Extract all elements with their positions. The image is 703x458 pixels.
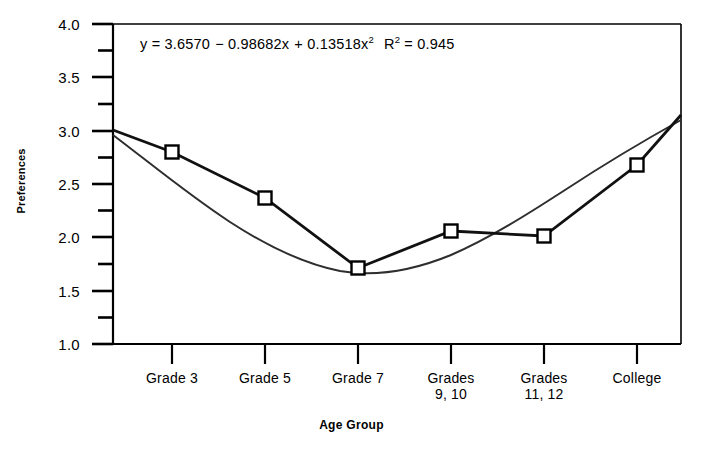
observed-data-line bbox=[113, 115, 681, 268]
axis-frame bbox=[113, 24, 681, 344]
x-tick-label-grade-7: Grade 7 bbox=[308, 370, 408, 386]
x-tick-label-grade-3: Grade 3 bbox=[122, 370, 222, 386]
data-marker-grades-11-12 bbox=[538, 230, 551, 243]
data-marker-grades-9-10 bbox=[445, 225, 458, 238]
y-major-ticks bbox=[92, 24, 113, 344]
x-tick-label-grades-11-12: Grades 11, 12 bbox=[494, 370, 594, 402]
data-markers bbox=[166, 146, 644, 275]
x-ticks bbox=[172, 344, 637, 364]
chart-figure: Preferences 4.0 3.5 3.0 2.5 2.0 1.5 1.0 … bbox=[0, 0, 703, 458]
x-tick-label-grade-5: Grade 5 bbox=[215, 370, 315, 386]
data-marker-grade-5 bbox=[259, 192, 272, 205]
x-tick-label-grades-9-10: Grades 9, 10 bbox=[401, 370, 501, 402]
data-marker-grade-3 bbox=[166, 146, 179, 159]
x-tick-label-college: College bbox=[587, 370, 687, 386]
x-axis-title: Age Group bbox=[0, 418, 703, 432]
plot-area-svg bbox=[0, 0, 703, 458]
data-marker-grade-7 bbox=[352, 262, 365, 275]
data-marker-college bbox=[631, 159, 644, 172]
